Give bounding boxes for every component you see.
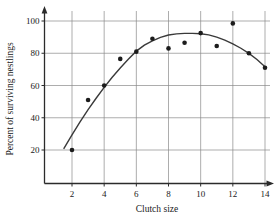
chart-canvas: 20406080100 2468101214 Clutch size Perce… xyxy=(0,0,277,219)
x-tick-label-2: 2 xyxy=(70,189,75,199)
fitted-curve xyxy=(64,33,265,148)
y-tick-label-100: 100 xyxy=(26,16,40,26)
y-axis-ticks: 20406080100 xyxy=(26,16,45,155)
x-tick-label-10: 10 xyxy=(196,189,206,199)
data-point xyxy=(102,83,107,88)
y-tick-label-40: 40 xyxy=(31,113,41,123)
data-point xyxy=(231,21,236,26)
data-point xyxy=(263,65,268,70)
data-point xyxy=(247,51,252,56)
x-tick-label-8: 8 xyxy=(166,189,171,199)
y-axis-arrow-icon xyxy=(42,6,48,14)
gridlines-horizontal xyxy=(45,21,271,150)
data-point xyxy=(198,31,203,36)
x-axis-title: Clutch size xyxy=(136,204,178,214)
data-point xyxy=(214,44,219,49)
gridlines-vertical xyxy=(72,11,265,184)
y-tick-label-20: 20 xyxy=(31,145,41,155)
x-tick-label-14: 14 xyxy=(261,189,271,199)
data-point xyxy=(86,98,91,103)
y-axis-title: Percent of surviving nestlings xyxy=(5,42,15,155)
data-point xyxy=(118,57,123,62)
scatter-plot-figure: 20406080100 2468101214 Clutch size Perce… xyxy=(0,0,277,219)
data-point xyxy=(70,148,75,153)
x-axis-ticks: 2468101214 xyxy=(70,184,270,199)
x-tick-label-12: 12 xyxy=(228,189,237,199)
data-point xyxy=(182,40,187,45)
y-tick-label-60: 60 xyxy=(31,81,41,91)
y-axis xyxy=(42,6,48,184)
x-axis xyxy=(45,181,275,187)
data-point xyxy=(166,46,171,51)
y-tick-label-80: 80 xyxy=(31,48,41,58)
x-tick-label-6: 6 xyxy=(134,189,139,199)
x-tick-label-4: 4 xyxy=(102,189,107,199)
x-axis-arrow-icon xyxy=(267,181,275,187)
data-point xyxy=(150,36,155,41)
data-point xyxy=(134,49,139,54)
